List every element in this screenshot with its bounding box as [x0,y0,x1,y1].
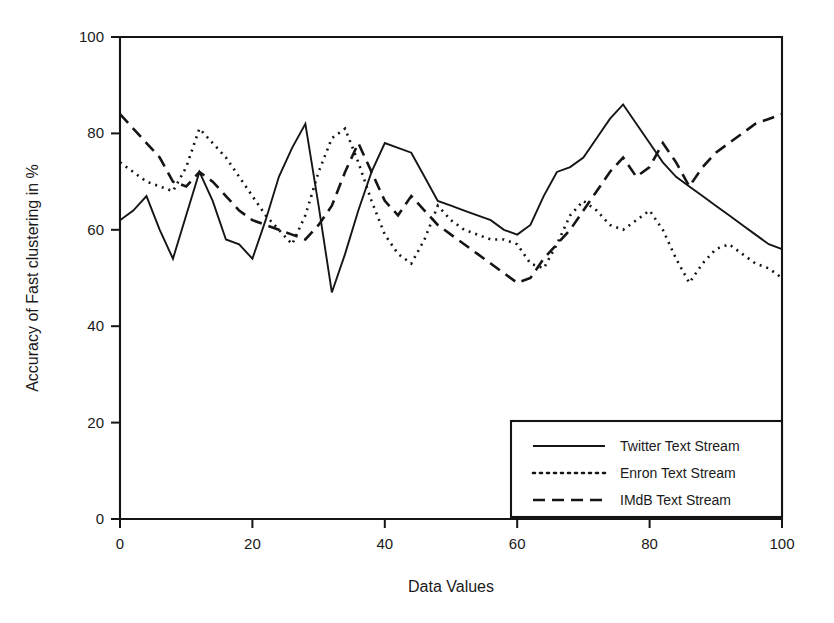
y-tick-label: 0 [96,510,104,527]
x-axis-title: Data Values [408,578,494,595]
legend-label: Twitter Text Stream [620,438,740,454]
chart-legend: Twitter Text StreamEnron Text StreamIMdB… [511,421,782,517]
x-tick-label: 80 [641,535,658,552]
y-tick-label: 80 [87,124,104,141]
legend-label: IMdB Text Stream [620,492,731,508]
y-tick-label: 40 [87,317,104,334]
y-tick-label: 60 [87,221,104,238]
x-tick-label: 0 [116,535,124,552]
chart-figure: 020406080100 020406080100 Data Values Ac… [0,0,834,623]
x-tick-label: 100 [769,535,794,552]
x-tick-label: 20 [244,535,261,552]
chart-background [0,0,834,623]
y-tick-label: 100 [79,28,104,45]
x-tick-label: 40 [376,535,393,552]
line-chart: 020406080100 020406080100 Data Values Ac… [0,0,834,623]
x-tick-label: 60 [509,535,526,552]
y-tick-label: 20 [87,414,104,431]
y-axis-title: Accuracy of Fast clustering in % [24,164,41,392]
legend-label: Enron Text Stream [620,465,736,481]
